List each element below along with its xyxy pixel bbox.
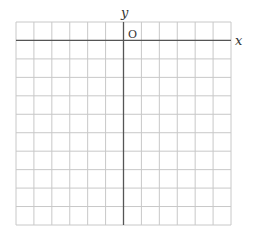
x-axis-label: x [235,33,243,48]
origin-label: O [128,28,137,41]
y-axis-label: y [120,5,129,20]
coordinate-grid: y O x [0,0,256,232]
